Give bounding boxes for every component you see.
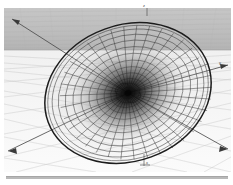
figure-root: z y x xyxy=(0,0,233,185)
plot-canvas xyxy=(4,8,231,172)
z-axis-label: z xyxy=(143,3,145,8)
bottom-divider xyxy=(6,176,228,179)
y-axis-label: y xyxy=(219,60,221,65)
plot-viewport[interactable] xyxy=(4,8,231,172)
x-axis-label: x xyxy=(146,160,148,165)
